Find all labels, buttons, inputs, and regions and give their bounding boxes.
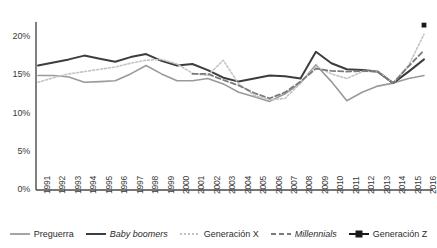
series-marker-generación-z [422, 23, 427, 28]
legend-label-generacion-z: Generación Z [373, 229, 428, 239]
legend-label-millennials: Millennials [295, 229, 337, 239]
x-tick-label: 1994 [88, 176, 98, 194]
x-tick-label: 1999 [166, 176, 176, 194]
x-tick-label: 2013 [382, 176, 392, 194]
chart-legend: PreguerraBaby boomersGeneración XMillenn… [0, 224, 437, 244]
x-tick-label: 2003 [227, 176, 237, 194]
x-tick-label: 2016 [428, 176, 437, 194]
legend-item-preguerra[interactable]: Preguerra [10, 229, 74, 239]
x-tick-label: 1997 [135, 176, 145, 194]
axes [36, 22, 433, 190]
legend-swatch-generacion-z-icon [349, 229, 369, 239]
x-tick-label: 2002 [212, 176, 222, 194]
legend-item-generacion-x[interactable]: Generación X [180, 229, 259, 239]
y-tick-label: 10% [0, 108, 30, 118]
y-tick-label: 5% [0, 146, 30, 156]
x-tick-label: 2006 [274, 176, 284, 194]
x-tick-label: 1993 [73, 176, 83, 194]
legend-label-baby-boomers: Baby boomers [110, 229, 168, 239]
plot-area [0, 0, 437, 248]
series-line-millennials [192, 50, 424, 98]
x-tick-label: 1995 [104, 176, 114, 194]
legend-swatch-generacion-x-icon [180, 229, 200, 239]
x-tick-label: 2014 [397, 176, 407, 194]
series-container [38, 23, 426, 102]
x-tick-label: 2012 [366, 176, 376, 194]
legend-item-baby-boomers[interactable]: Baby boomers [86, 229, 168, 239]
x-tick-label: 2015 [413, 176, 423, 194]
x-tick-label: 1996 [119, 176, 129, 194]
legend-swatch-millennials-icon [271, 229, 291, 239]
series-line-baby-boomers [38, 52, 424, 83]
legend-item-millennials[interactable]: Millennials [271, 229, 337, 239]
x-tick-label: 2001 [196, 176, 206, 194]
x-tick-label: 2009 [320, 176, 330, 194]
y-tick-label: 0% [0, 184, 30, 194]
x-tick-label: 1992 [57, 176, 67, 194]
legend-swatch-preguerra-icon [10, 229, 30, 239]
line-chart: 0%5%10%15%20% 19911992199319941995199619… [0, 0, 437, 248]
x-tick-label: 2007 [289, 176, 299, 194]
x-tick-label: 2000 [181, 176, 191, 194]
legend-item-generacion-z[interactable]: Generación Z [349, 229, 428, 239]
x-tick-label: 1998 [150, 176, 160, 194]
y-tick-label: 15% [0, 69, 30, 79]
y-tick-label: 20% [0, 31, 30, 41]
x-tick-label: 2010 [335, 176, 345, 194]
legend-label-generacion-x: Generación X [204, 229, 259, 239]
x-tick-label: 2008 [304, 176, 314, 194]
x-tick-label: 1991 [42, 176, 52, 194]
x-tick-label: 2005 [258, 176, 268, 194]
x-tick-label: 2004 [243, 176, 253, 194]
legend-swatch-baby-boomers-icon [86, 229, 106, 239]
legend-label-preguerra: Preguerra [34, 229, 74, 239]
x-tick-label: 2011 [351, 177, 361, 194]
